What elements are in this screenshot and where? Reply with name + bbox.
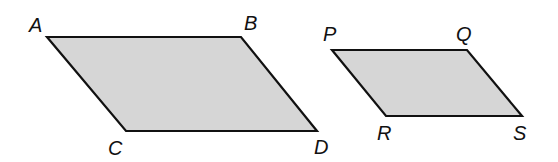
vertex-label-c: C xyxy=(108,137,123,159)
vertex-label-q: Q xyxy=(456,23,472,45)
vertex-label-p: P xyxy=(323,23,337,45)
vertex-label-a: A xyxy=(28,14,42,36)
parallelogram-diagram: A B D C P Q S R xyxy=(0,0,558,162)
parallelogram-abcd xyxy=(47,37,317,131)
parallelogram-pqrs xyxy=(332,50,522,116)
vertex-label-r: R xyxy=(377,122,391,144)
vertex-label-b: B xyxy=(244,12,257,34)
vertex-label-d: D xyxy=(314,136,328,158)
vertex-label-s: S xyxy=(513,122,527,144)
